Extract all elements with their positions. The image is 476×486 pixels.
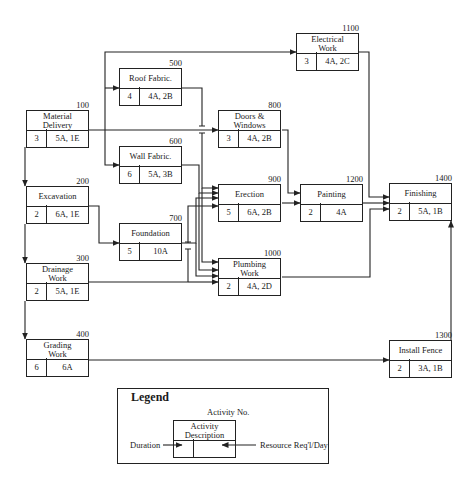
activity-resources: 5A, 1E xyxy=(47,282,88,300)
activity-description: Finishing xyxy=(390,184,451,204)
activity-duration: 2 xyxy=(27,205,47,223)
activity-resources: 4A, 2B xyxy=(140,87,181,105)
activity-description: Doors &Windows xyxy=(219,111,280,131)
activity-node-700: Foundation 5 10A xyxy=(119,223,182,261)
activity-node-1000: PlumbingWork 2 4A, 2D xyxy=(218,258,281,296)
activity-duration: 3 xyxy=(27,129,47,147)
activity-resources: 3A, 1B xyxy=(410,359,451,377)
activity-duration: 5 xyxy=(219,203,239,221)
activity-node-1100: ElectricalWork 3 4A, 2C xyxy=(296,33,359,71)
activity-resources: 4A, 2B xyxy=(239,129,280,147)
activity-duration: 2 xyxy=(390,359,410,377)
activity-duration: 6 xyxy=(120,165,140,183)
activity-number: 700 xyxy=(142,213,182,223)
activity-description: DrainageWork xyxy=(27,264,88,284)
activity-number: 600 xyxy=(142,136,182,146)
activity-number: 1300 xyxy=(412,330,452,340)
activity-resources: 6A, 2B xyxy=(239,203,280,221)
activity-resources: 4A, 2C xyxy=(317,52,358,70)
activity-node-1400: Finishing 2 5A, 1B xyxy=(389,183,452,221)
activity-description: MaterialDelivery xyxy=(27,111,88,131)
activity-description: Erection xyxy=(219,185,280,205)
activity-node-1200: Painting 2 4A xyxy=(300,184,363,222)
activity-duration: 6 xyxy=(27,358,47,376)
activity-description: ElectricalWork xyxy=(297,34,358,54)
activity-resources: 6A, 1E xyxy=(47,205,88,223)
activity-duration: 2 xyxy=(219,277,239,295)
activity-node-500: Roof Fabric. 4 4A, 2B xyxy=(119,68,182,106)
legend-arrows xyxy=(118,389,330,465)
activity-description: Excavation xyxy=(27,187,88,207)
activity-resources: 4A, 2D xyxy=(239,277,280,295)
activity-resources: 6A xyxy=(47,358,88,376)
activity-description: Foundation xyxy=(120,224,181,244)
activity-number: 900 xyxy=(241,174,281,184)
activity-number: 1000 xyxy=(241,248,281,258)
activity-description: Painting xyxy=(301,185,362,205)
activity-description: Install Fence xyxy=(390,341,451,361)
activity-duration: 2 xyxy=(27,282,47,300)
activity-resources: 5A, 3B xyxy=(140,165,181,183)
activity-number: 500 xyxy=(142,58,182,68)
activity-node-600: Wall Fabric. 6 5A, 3B xyxy=(119,146,182,184)
activity-number: 300 xyxy=(49,253,89,263)
activity-description: Wall Fabric. xyxy=(120,147,181,167)
activity-description: GradingWork xyxy=(27,340,88,360)
activity-duration: 3 xyxy=(219,129,239,147)
legend: Legend Activity No. ActivityDescription … xyxy=(117,388,329,464)
activity-number: 400 xyxy=(49,329,89,339)
activity-duration: 2 xyxy=(301,203,321,221)
activity-resources: 10A xyxy=(140,242,181,260)
activity-number: 200 xyxy=(49,176,89,186)
activity-duration: 3 xyxy=(297,52,317,70)
activity-duration: 4 xyxy=(120,87,140,105)
activity-node-1300: Install Fence 2 3A, 1B xyxy=(389,340,452,378)
activity-number: 1100 xyxy=(319,23,359,33)
activity-resources: 5A, 1E xyxy=(47,129,88,147)
activity-node-300: DrainageWork 2 5A, 1E xyxy=(26,263,89,301)
activity-number: 1400 xyxy=(412,173,452,183)
activity-number: 1200 xyxy=(323,174,363,184)
activity-node-900: Erection 5 6A, 2B xyxy=(218,184,281,222)
activity-node-100: MaterialDelivery 3 5A, 1E xyxy=(26,110,89,148)
activity-description: PlumbingWork xyxy=(219,259,280,279)
activity-resources: 5A, 1B xyxy=(410,202,451,220)
activity-node-800: Doors &Windows 3 4A, 2B xyxy=(218,110,281,148)
activity-node-200: Excavation 2 6A, 1E xyxy=(26,186,89,224)
activity-number: 800 xyxy=(241,100,281,110)
activity-node-400: GradingWork 6 6A xyxy=(26,339,89,377)
activity-duration: 2 xyxy=(390,202,410,220)
activity-description: Roof Fabric. xyxy=(120,69,181,89)
activity-number: 100 xyxy=(49,100,89,110)
activity-duration: 5 xyxy=(120,242,140,260)
activity-resources: 4A xyxy=(321,203,362,221)
